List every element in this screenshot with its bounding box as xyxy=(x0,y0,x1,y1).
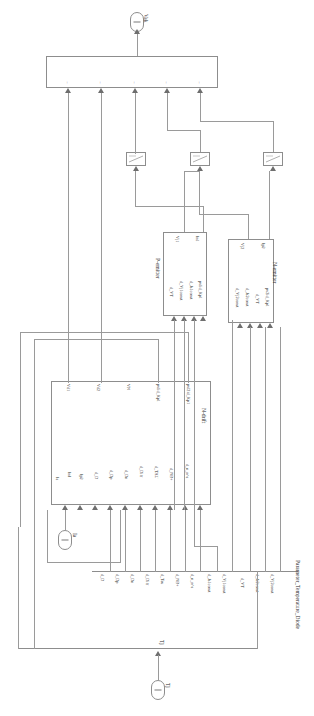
gain-block-2[interactable] xyxy=(190,152,210,166)
wire-vak xyxy=(137,32,138,56)
gain-glyph-3 xyxy=(264,153,282,165)
output-port-vak-label: Vak xyxy=(143,14,148,23)
port-number-ia xyxy=(59,531,71,549)
ndrift-in-arrow-2 xyxy=(77,505,83,510)
ndrift-output-pv2id: pvl2id_Kp1 xyxy=(186,384,191,404)
wire-pem-In1-v2 xyxy=(135,171,136,207)
tj-bus-left-riser xyxy=(18,527,19,649)
param-label-dnna: d_n_n^a xyxy=(190,574,195,588)
ndrift-output-VN: VN xyxy=(126,384,131,390)
pemitter-block[interactable] xyxy=(163,232,207,316)
ndrift-input-dDn: d_Dn xyxy=(124,470,129,479)
nemitter-in-arrow-2 xyxy=(257,323,263,328)
param-wire-dDn xyxy=(140,510,141,572)
ndrift-title: N-drift xyxy=(201,408,206,423)
param-label-dD: d_D xyxy=(100,574,105,581)
pemitter-output-In1: In1 xyxy=(195,236,200,242)
pemitter-output-Vj1: Vj1 xyxy=(175,236,180,242)
ndrift-input-dDiff: d_Diff xyxy=(139,466,144,477)
tj-bus-right-riser xyxy=(257,571,258,649)
wire-gain2-to-sum xyxy=(167,93,168,131)
ndrift-input-dnna: d_n_n^a xyxy=(185,464,190,478)
wire-pv2id-h xyxy=(20,332,189,333)
nemitter-input-Js2const: d_Js2const xyxy=(245,288,250,306)
pemitter-title: P-emitter xyxy=(155,258,160,278)
gain-block-1[interactable] xyxy=(126,152,146,166)
param-label-dTau: d_Tau xyxy=(160,574,165,584)
wire-pem-In1-h xyxy=(135,206,204,207)
diagram-canvas: Vak + + + + + xyxy=(0,0,314,716)
param-wire-dD xyxy=(110,510,111,572)
wire-pem-In1 xyxy=(203,206,204,232)
wire-pem-in1-down xyxy=(174,320,175,510)
sum-sign-1: + xyxy=(66,81,68,85)
gain-block-3[interactable] xyxy=(263,152,283,166)
ndrift-output-pvlid: pvlid_Kp1 xyxy=(156,384,161,402)
wire-pv2id-up xyxy=(188,332,189,383)
sum-sign-4: + xyxy=(165,81,167,85)
input-port-ia-label: Ia xyxy=(72,533,77,537)
wire-tj xyxy=(158,655,159,680)
wire-pvlid-h xyxy=(34,339,159,340)
tj-bus-label: Tj xyxy=(159,640,164,645)
nemitter-input-VT: d_VT xyxy=(255,294,260,304)
gain-glyph-2 xyxy=(191,153,209,165)
param-wire-dnna xyxy=(200,510,201,572)
gain-glyph-1 xyxy=(127,153,145,165)
arrow-vak xyxy=(134,29,140,34)
ndrift-input-dD: d_D xyxy=(94,472,99,479)
param-wire-dVj1const xyxy=(232,320,233,572)
sum-sign-5: + xyxy=(198,81,200,85)
wire-pv2id-left xyxy=(20,332,21,527)
gain-1-input-arrow xyxy=(133,166,139,171)
nemitter-input-Vj2const: d_Vj2const xyxy=(235,288,240,307)
ndrift-output-Vd2: Vd2 xyxy=(96,384,101,391)
nemitter-in-arrow-1 xyxy=(267,323,273,328)
param-wire-dJs2const xyxy=(265,327,266,572)
ndrift-in-arrow-3 xyxy=(92,505,98,510)
tj-bus-line xyxy=(18,648,258,649)
input-port-tj[interactable] xyxy=(151,680,165,700)
parameter-bus-label: Parameter_Temperature_Diode xyxy=(295,560,300,629)
wire-gain3-up xyxy=(273,121,274,152)
param-label-dDiff: d_Diff xyxy=(145,574,150,585)
param-wire-dDiff xyxy=(155,510,156,572)
wire-nem-Ip2 xyxy=(269,171,270,239)
pemitter-in-arrow-1 xyxy=(200,316,206,321)
nemitter-input-pv2id: pv2id_Kp1 xyxy=(265,288,270,307)
parameter-bus-line xyxy=(92,571,298,572)
wire-pvlid-up xyxy=(158,339,159,383)
wire-nem-Vj2 xyxy=(248,214,249,239)
input-port-ia[interactable] xyxy=(58,530,72,550)
nemitter-title: N-emitter xyxy=(272,262,277,283)
param-label-dDn: d_Dn xyxy=(130,574,135,583)
wire-nem-Vj2-v2 xyxy=(199,171,200,215)
wire-pem-Vj1 xyxy=(184,171,185,232)
param-wire-dVj2const xyxy=(280,327,281,572)
param-label-dVT: d_VT xyxy=(240,578,245,588)
wire-gain3-to-sum xyxy=(200,93,201,122)
sum-block[interactable] xyxy=(46,56,218,88)
wire-ia-up xyxy=(65,510,66,531)
param-label-dNB: d_NB+ xyxy=(175,574,180,586)
param-wire-dJs1const-h xyxy=(194,546,218,547)
wire-gain2-up xyxy=(200,130,201,152)
tj-bus-left-riser2 xyxy=(34,527,35,649)
ndrift-input-dDp: d_Dp xyxy=(109,470,114,479)
nemitter-in-arrow-4 xyxy=(237,323,243,328)
param-wire-dJs1const-a xyxy=(217,546,218,572)
wire-gain3-h xyxy=(200,121,274,122)
wire-nem-Vj2-h xyxy=(199,214,249,215)
pemitter-input-pvlid: pvlid_Kp1 xyxy=(198,281,203,299)
wire-pem-Vj1-h xyxy=(184,171,200,172)
ndrift-output-Vd1: Vd1 xyxy=(66,384,71,391)
pemitter-input-VT: d_VT xyxy=(169,287,174,297)
wire-vn xyxy=(135,93,136,154)
ndrift-input-Ip2: Ip2 xyxy=(79,474,84,480)
nemitter-block[interactable] xyxy=(228,239,274,323)
param-label-dJs1const: d_Js1const xyxy=(207,574,212,592)
param-label-dVj2const: d_Vj2const xyxy=(270,574,275,593)
pemitter-input-Vj1const: d_Vj1const xyxy=(179,281,184,300)
input-port-tj-label: Tj xyxy=(165,683,170,688)
param-label-dVj1const: d_Vj1const xyxy=(222,574,227,593)
